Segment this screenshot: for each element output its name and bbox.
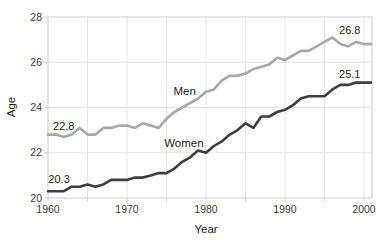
x-tick-label: 1960 (36, 203, 60, 215)
y-tick-label: 20 (30, 192, 42, 204)
x-tick-label: 2000 (352, 203, 376, 215)
y-tick-label: 22 (30, 146, 42, 158)
point-label-women-start: 20.3 (48, 173, 69, 185)
y-tick-label: 28 (30, 11, 42, 23)
point-label-women-end: 25.1 (339, 68, 360, 80)
series-label-men: Men (173, 85, 195, 97)
series-line-men (48, 37, 371, 136)
y-tick-label: 26 (30, 56, 42, 68)
y-tick-label: 24 (30, 101, 42, 113)
x-tick-label: 1980 (194, 203, 218, 215)
chart-container: Age Year 1960197019801990200020222426282… (0, 0, 390, 248)
series-label-women: Women (164, 137, 203, 149)
point-label-men-end: 26.8 (339, 24, 360, 36)
x-tick-label: 1990 (273, 203, 297, 215)
point-label-men-start: 22.8 (53, 120, 74, 132)
x-axis-title: Year (194, 223, 217, 235)
series-line-women (48, 83, 371, 192)
age-at-first-marriage-line-chart: Age Year 1960197019801990200020222426282… (0, 0, 390, 248)
y-axis-title: Age (5, 97, 17, 117)
x-tick-label: 1970 (115, 203, 139, 215)
